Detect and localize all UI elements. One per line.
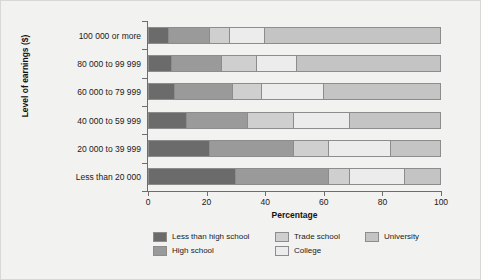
bar-segment [405,169,440,184]
legend-item: High school [153,246,214,256]
bar-row [148,112,441,129]
bar-segment [149,28,169,43]
bar-segment [175,84,233,99]
x-axis-tick [148,192,149,196]
y-axis-tick [142,21,147,22]
legend-swatch [153,246,167,256]
bar-segment [262,84,323,99]
x-axis-tick-label: 40 [260,197,269,207]
y-axis-tick-labels: 100 000 or more80 000 to 99 99960 000 to… [31,21,141,191]
bar-segment [187,113,248,128]
legend-swatch [275,246,289,256]
bar-segment [257,56,298,71]
bar-segment [329,141,390,156]
bar-segment [324,84,440,99]
bar-segment [350,113,440,128]
y-axis-tick-label: 20 000 to 39 999 [35,144,141,154]
bar-segment [149,141,210,156]
bar-segment [248,113,295,128]
chart-legend: Less than high schoolHigh schoolTrade sc… [153,232,443,264]
bar-segment [149,169,236,184]
chart-figure: Level of earnings ($) 100 000 or more80 … [0,0,481,280]
y-axis-tick [142,163,147,164]
legend-label: High school [172,247,214,255]
x-axis-tick-label: 80 [378,197,387,207]
y-axis-tick-label: 60 000 to 79 999 [35,87,141,97]
legend-item: College [275,246,321,256]
x-axis-tick [441,192,442,196]
bar-segment [294,113,349,128]
x-axis-tick-label: 60 [319,197,328,207]
plot-area [148,21,441,191]
bar-row [148,140,441,157]
legend-label: Less than high school [172,233,249,241]
y-axis-tick-label: Less than 20 000 [35,172,141,182]
legend-label: Trade school [294,233,340,241]
bar-row [148,83,441,100]
bar-segment [233,84,262,99]
x-axis-tick-label: 100 [434,197,448,207]
x-axis-title: Percentage [148,210,441,220]
legend-swatch [275,232,289,242]
x-axis-tick [382,192,383,196]
bar-segment [149,113,187,128]
bar-row [148,55,441,72]
x-axis-tick-label: 20 [202,197,211,207]
legend-label: College [294,247,321,255]
y-axis-tick [142,49,147,50]
y-axis-tick [142,191,147,192]
x-axis-line [147,191,442,192]
bar-segment [350,169,405,184]
y-axis-tick-label: 100 000 or more [35,31,141,41]
bar-segment [265,28,440,43]
x-axis-tick [207,192,208,196]
bar-segment [236,169,329,184]
bar-segment [149,56,172,71]
legend-swatch [365,232,379,242]
bar-segment [172,56,221,71]
x-axis-tick [324,192,325,196]
y-axis-tick-label: 80 000 to 99 999 [35,59,141,69]
bar-segment [149,84,175,99]
legend-item: University [365,232,419,242]
y-axis-title: Level of earnings ($) [20,28,30,124]
bar-segment [222,56,257,71]
bar-segment [329,169,349,184]
bar-segment [210,141,294,156]
legend-item: Less than high school [153,232,249,242]
bar-segment [294,141,329,156]
bar-row [148,168,441,185]
bar-segment [297,56,440,71]
y-axis-tick [142,106,147,107]
bar-segment [169,28,210,43]
x-axis-tick-label: 0 [146,197,151,207]
legend-swatch [153,232,167,242]
bar-row [148,27,441,44]
legend-item: Trade school [275,232,340,242]
x-axis-tick [265,192,266,196]
bar-segment [391,141,440,156]
y-axis-tick [142,134,147,135]
bar-segment [210,28,230,43]
bar-segment [230,28,265,43]
y-axis-tick [142,78,147,79]
y-axis-tick-label: 40 000 to 59 999 [35,116,141,126]
legend-label: University [384,233,419,241]
